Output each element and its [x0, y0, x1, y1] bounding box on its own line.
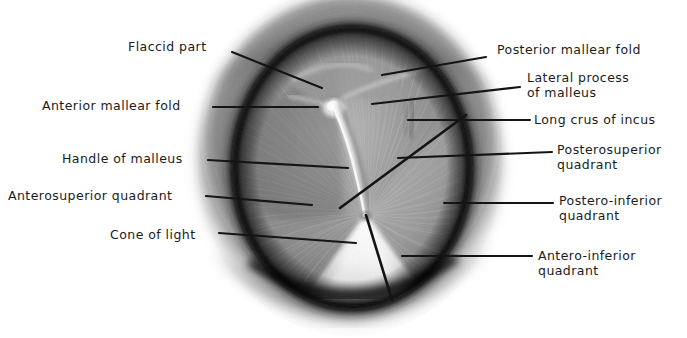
label-anterosuperior-quadrant: Anterosuperior quadrant: [8, 189, 172, 204]
label-lateral-process-of-malleus: Lateral process of malleus: [527, 71, 629, 100]
label-postero-inferior-quadrant: Postero-inferior quadrant: [559, 194, 662, 223]
label-handle-of-malleus: Handle of malleus: [62, 152, 183, 167]
label-cone-of-light: Cone of light: [110, 228, 196, 243]
label-flaccid-part: Flaccid part: [128, 40, 206, 55]
label-antero-inferior-quadrant: Antero-inferior quadrant: [538, 249, 636, 278]
label-posterior-mallear-fold: Posterior mallear fold: [497, 43, 641, 58]
label-long-crus-of-incus: Long crus of incus: [534, 113, 655, 128]
label-anterior-mallear-fold: Anterior mallear fold: [42, 99, 181, 114]
label-posterosuperior-quadrant: Posterosuperior quadrant: [557, 143, 662, 172]
